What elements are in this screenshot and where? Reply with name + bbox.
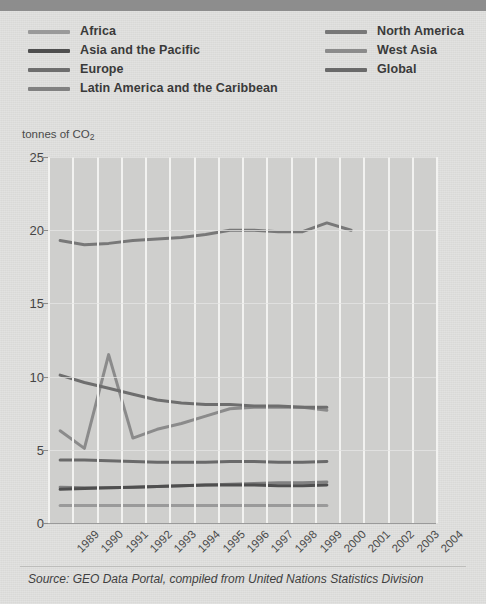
y-axis-tick-mark	[42, 523, 48, 524]
x-axis-tick-label: 2003	[414, 528, 441, 555]
legend-column-right: North AmericaWest AsiaGlobal	[325, 22, 464, 79]
y-axis-tick-label: 15	[30, 296, 44, 311]
x-axis-tick-label: 1997	[269, 528, 296, 555]
x-axis-tick-label: 2002	[390, 528, 417, 555]
legend-swatch-icon	[325, 30, 367, 34]
legend-item-label: North America	[377, 25, 464, 38]
vertical-gridline	[218, 157, 220, 523]
y-axis-tick-mark	[42, 303, 48, 304]
series-line	[60, 355, 327, 449]
legend-item[interactable]: Latin America and the Caribbean	[28, 79, 278, 98]
x-axis-tick-label: 1996	[244, 528, 271, 555]
vertical-gridline	[242, 157, 244, 523]
source-note: Source: GEO Data Portal, compiled from U…	[28, 572, 423, 586]
series-line	[60, 375, 327, 407]
legend-swatch-icon	[325, 49, 367, 53]
legend-item[interactable]: West Asia	[325, 41, 464, 60]
x-axis-tick-label: 1994	[196, 528, 223, 555]
legend-item-label: West Asia	[377, 44, 437, 57]
y-axis-caption-text: tonnes of CO	[22, 128, 90, 140]
y-axis-tick-label: 0	[37, 516, 44, 531]
vertical-gridline	[194, 157, 196, 523]
x-axis-tick-label: 1991	[123, 528, 150, 555]
series-lines	[48, 157, 436, 523]
legend-swatch-icon	[325, 68, 367, 72]
y-axis-tick-mark	[42, 377, 48, 378]
series-line	[60, 223, 351, 245]
vertical-gridline	[339, 157, 341, 523]
y-axis-tick-label: 10	[30, 369, 44, 384]
legend-item[interactable]: North America	[325, 22, 464, 41]
vertical-gridline	[72, 157, 74, 523]
legend-item[interactable]: Europe	[28, 60, 278, 79]
legend-item-label: Asia and the Pacific	[80, 44, 200, 57]
series-line	[60, 482, 327, 488]
x-axis-line	[48, 523, 436, 524]
legend-swatch-icon	[28, 49, 70, 53]
y-axis-tick-mark	[42, 230, 48, 231]
vertical-gridline	[121, 157, 123, 523]
y-axis-tick-label: 20	[30, 223, 44, 238]
legend-item-label: Europe	[80, 63, 124, 76]
vertical-gridline	[388, 157, 390, 523]
header-bar	[0, 0, 486, 11]
vertical-gridline	[48, 157, 50, 523]
x-axis-tick-label: 1998	[293, 528, 320, 555]
legend-item-label: Latin America and the Caribbean	[80, 82, 278, 95]
vertical-gridline	[97, 157, 99, 523]
footer-divider	[20, 566, 466, 567]
y-axis-caption-subscript: 2	[90, 132, 95, 142]
plot-panel	[48, 157, 436, 523]
vertical-gridline	[315, 157, 317, 523]
series-line	[60, 460, 327, 462]
x-axis-tick-label: 1992	[147, 528, 174, 555]
x-axis-tick-label: 1989	[75, 528, 102, 555]
series-line	[60, 485, 327, 489]
legend-item[interactable]: Asia and the Pacific	[28, 41, 278, 60]
vertical-gridline	[266, 157, 268, 523]
chart-page: AfricaAsia and the PacificEuropeLatin Am…	[0, 0, 486, 604]
x-axis-tick-label: 1990	[99, 528, 126, 555]
horizontal-gridline	[48, 157, 436, 158]
x-axis-tick-label: 1995	[220, 528, 247, 555]
vertical-gridline	[363, 157, 365, 523]
legend-item-label: Global	[377, 63, 417, 76]
legend-swatch-icon	[28, 30, 70, 34]
y-axis-tick-mark	[42, 157, 48, 158]
vertical-gridline	[436, 157, 438, 523]
horizontal-gridline	[48, 230, 436, 231]
x-axis-tick-label: 2004	[438, 528, 465, 555]
legend-swatch-icon	[28, 87, 70, 91]
y-axis-caption: tonnes of CO2	[22, 128, 95, 140]
x-axis-tick-label: 2000	[341, 528, 368, 555]
chart-legend: AfricaAsia and the PacificEuropeLatin Am…	[0, 22, 486, 114]
legend-item[interactable]: Africa	[28, 22, 278, 41]
x-axis-tick-label: 1999	[317, 528, 344, 555]
x-axis-tick-label: 2001	[366, 528, 393, 555]
y-axis-tick-label: 5	[37, 442, 44, 457]
horizontal-gridline	[48, 450, 436, 451]
x-axis-tick-label: 1993	[172, 528, 199, 555]
horizontal-gridline	[48, 303, 436, 304]
vertical-gridline	[412, 157, 414, 523]
legend-swatch-icon	[28, 68, 70, 72]
y-axis-tick-label: 25	[30, 150, 44, 165]
legend-item-label: Africa	[80, 25, 116, 38]
y-axis-tick-mark	[42, 450, 48, 451]
vertical-gridline	[169, 157, 171, 523]
legend-column-left: AfricaAsia and the PacificEuropeLatin Am…	[28, 22, 278, 98]
horizontal-gridline	[48, 377, 436, 378]
vertical-gridline	[145, 157, 147, 523]
vertical-gridline	[291, 157, 293, 523]
legend-item[interactable]: Global	[325, 60, 464, 79]
